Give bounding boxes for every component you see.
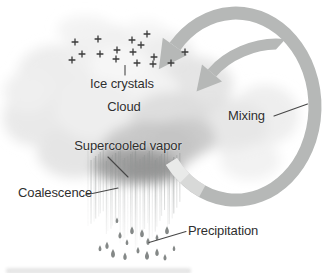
label-precipitation: Precipitation	[188, 224, 258, 238]
raindrop	[173, 245, 176, 251]
raindrop	[111, 249, 115, 257]
raindrop	[163, 254, 166, 261]
raindrop	[145, 251, 149, 260]
label-supercooled-vapor: Supercooled vapor	[48, 139, 208, 153]
raindrop	[126, 239, 129, 245]
raindrop	[165, 226, 169, 234]
raindrop	[99, 245, 102, 251]
raindrop	[105, 242, 108, 249]
cloud-blob	[4, 72, 52, 112]
cloud-precipitation-diagram: Ice crystals Cloud Supercooled vapor Coa…	[0, 0, 323, 273]
label-coalescence: Coalescence	[18, 186, 92, 200]
label-mixing: Mixing	[228, 109, 265, 123]
raindrop	[118, 232, 121, 239]
mixing-arrow-inner-arc	[212, 44, 276, 73]
cloud-blob	[57, 16, 113, 44]
cropped-caption-edge	[6, 268, 191, 273]
cloud-blob	[220, 140, 280, 180]
raindrop	[137, 247, 140, 253]
label-cloud: Cloud	[64, 100, 184, 114]
raindrop	[155, 248, 159, 256]
diagram-canvas	[0, 0, 323, 273]
raindrop	[123, 253, 126, 260]
label-ice-crystals: Ice crystals	[62, 77, 182, 91]
mixing-arrow-inner-tail	[276, 39, 286, 50]
